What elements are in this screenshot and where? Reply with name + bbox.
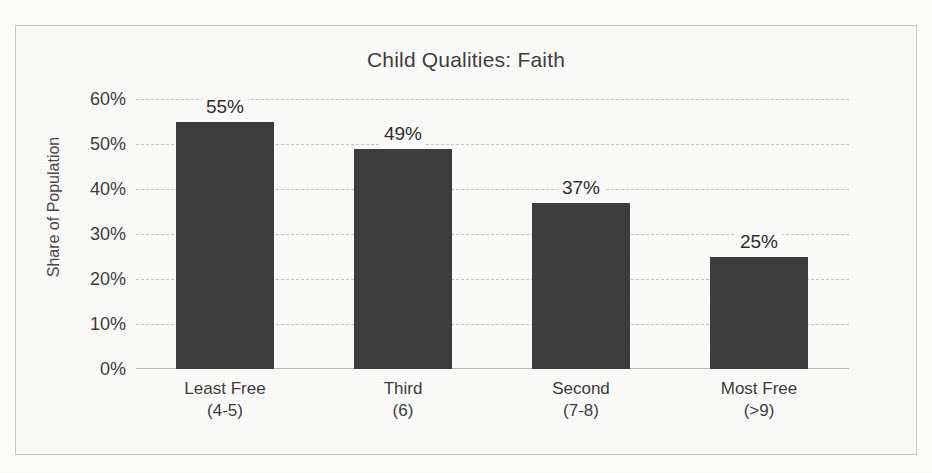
bar-group-most-free: 25%	[670, 99, 848, 369]
y-tick-label: 10%	[34, 314, 126, 335]
chart-screenshot: Child Qualities: Faith Share of Populati…	[0, 0, 932, 473]
x-tick-range: (6)	[314, 400, 492, 422]
y-tick-label: 0%	[34, 359, 126, 380]
bar	[710, 257, 808, 370]
bar-value-label: 37%	[558, 177, 604, 199]
x-tick-label-second: Second (7-8)	[492, 378, 670, 423]
x-tick-name: Least Free	[184, 379, 265, 398]
bar	[354, 149, 452, 370]
bar	[532, 203, 630, 370]
x-tick-range: (4-5)	[136, 400, 314, 422]
y-tick-label: 30%	[34, 224, 126, 245]
x-tick-name: Most Free	[721, 379, 798, 398]
x-tick-name: Second	[552, 379, 610, 398]
bar	[176, 122, 274, 370]
y-tick-label: 50%	[34, 134, 126, 155]
plot-area: 55% 49% 37% 25%	[136, 99, 849, 369]
chart-title: Child Qualities: Faith	[16, 48, 916, 72]
x-tick-name: Third	[384, 379, 423, 398]
x-tick-label-third: Third (6)	[314, 378, 492, 423]
chart-frame: Child Qualities: Faith Share of Populati…	[15, 25, 917, 455]
y-tick-label: 60%	[34, 89, 126, 110]
x-tick-range: (>9)	[670, 400, 848, 422]
x-tick-label-least-free: Least Free (4-5)	[136, 378, 314, 423]
bar-value-label: 55%	[202, 96, 248, 118]
y-tick-label: 20%	[34, 269, 126, 290]
bar-group-second: 37%	[492, 99, 670, 369]
bar-value-label: 25%	[736, 231, 782, 253]
bar-group-third: 49%	[314, 99, 492, 369]
y-tick-label: 40%	[34, 179, 126, 200]
y-axis-tick-labels: 60% 50% 40% 30% 20% 10% 0%	[26, 99, 126, 369]
bar-group-least-free: 55%	[136, 99, 314, 369]
bar-value-label: 49%	[380, 123, 426, 145]
x-tick-label-most-free: Most Free (>9)	[670, 378, 848, 423]
x-tick-range: (7-8)	[492, 400, 670, 422]
